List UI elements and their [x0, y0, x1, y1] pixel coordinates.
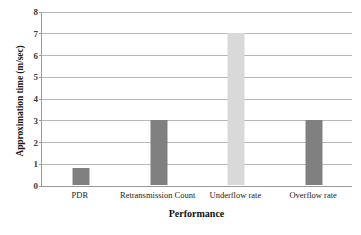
- y-axis-tick-label: 8: [22, 7, 38, 17]
- y-axis-tick-label: 7: [22, 29, 38, 39]
- x-axis-tick-label: Overflow rate: [289, 190, 336, 200]
- y-axis-tick-label: 3: [22, 116, 38, 126]
- bar-slot: [275, 12, 353, 186]
- x-axis-tick-label: PDR: [72, 190, 89, 200]
- y-axis-tick-label: 1: [22, 159, 38, 169]
- y-axis-tick-labels: 012345678: [22, 12, 38, 186]
- bar: [306, 120, 323, 185]
- x-axis-title: Performance: [41, 208, 352, 219]
- plot-area: [41, 12, 352, 186]
- bars-layer: [42, 12, 352, 186]
- y-axis-tick-label: 5: [22, 72, 38, 82]
- bar: [72, 168, 89, 185]
- bar-slot: [42, 12, 120, 186]
- bar-slot: [198, 12, 276, 186]
- y-axis-tick-label: 6: [22, 51, 38, 61]
- y-axis-tick-label: 0: [22, 181, 38, 191]
- bar: [228, 33, 245, 185]
- x-axis-tick-label: Underflow rate: [210, 190, 262, 200]
- bar-slot: [120, 12, 198, 186]
- y-axis-tick-label: 2: [22, 138, 38, 148]
- bar-chart: Approximation time (m/sec) 012345678 PDR…: [0, 0, 361, 235]
- x-axis-tick-labels: PDRRetransmission CountUnderflow rateOve…: [41, 190, 352, 206]
- bar: [150, 120, 167, 185]
- y-axis-tick-label: 4: [22, 94, 38, 104]
- x-axis-tick-label: Retransmission Count: [120, 190, 195, 200]
